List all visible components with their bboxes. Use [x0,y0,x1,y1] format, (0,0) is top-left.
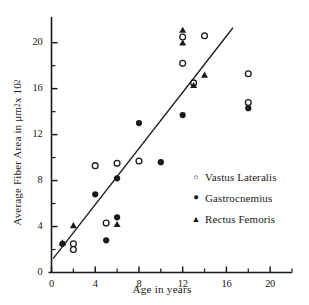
legend-item: Rectus Femoris [189,208,277,229]
y-axis-tick-label: 0 [25,266,43,277]
legend-item: Gastrocnemius [189,187,277,208]
data-point-gastrocnemius [103,237,109,243]
y-axis-tick-label: 20 [25,36,43,47]
y-axis-tick-label: 4 [25,220,43,231]
y-axis-tick-label: 16 [25,82,43,93]
data-point-gastrocnemius [114,175,120,181]
data-point-vastus-lateralis [245,100,251,106]
data-point-vastus-lateralis [103,220,109,226]
data-point-rectus-femoris [70,222,77,228]
filled-circle-icon [189,192,203,203]
data-point-gastrocnemius [180,112,186,118]
data-point-vastus-lateralis [245,71,251,77]
filled-triangle-icon [189,214,203,224]
data-point-gastrocnemius [92,191,98,197]
data-point-vastus-lateralis [136,158,142,164]
x-axis-label: Age in years [52,283,272,295]
legend-item-label: Gastrocnemius [203,192,272,204]
legend-item-label: Rectus Femoris [203,213,275,225]
data-point-rectus-femoris [201,72,208,78]
legend: Vastus LateralisGastrocnemiusRectus Femo… [189,166,277,229]
data-point-gastrocnemius [136,120,142,126]
data-point-vastus-lateralis [92,163,98,169]
data-point-vastus-lateralis [180,60,186,66]
data-point-gastrocnemius [158,159,164,165]
figure-scatter-plot: Average Fiber Area in μm2 x 102 04812162… [0,0,309,305]
y-axis-tick-label: 8 [25,174,43,185]
legend-item: Vastus Lateralis [189,166,277,187]
data-point-gastrocnemius [245,105,251,111]
data-point-gastrocnemius [114,214,120,220]
data-point-vastus-lateralis [114,160,120,166]
open-circle-icon [189,172,203,182]
plot-canvas [0,0,309,305]
data-point-rectus-femoris [179,27,186,33]
y-axis-tick-label: 12 [25,128,43,139]
data-point-rectus-femoris [179,39,186,45]
data-point-vastus-lateralis [202,33,208,39]
data-point-vastus-lateralis [180,34,186,40]
data-point-vastus-lateralis [70,241,76,247]
data-point-rectus-femoris [114,221,121,227]
legend-item-label: Vastus Lateralis [203,171,277,183]
data-point-vastus-lateralis [70,247,76,253]
